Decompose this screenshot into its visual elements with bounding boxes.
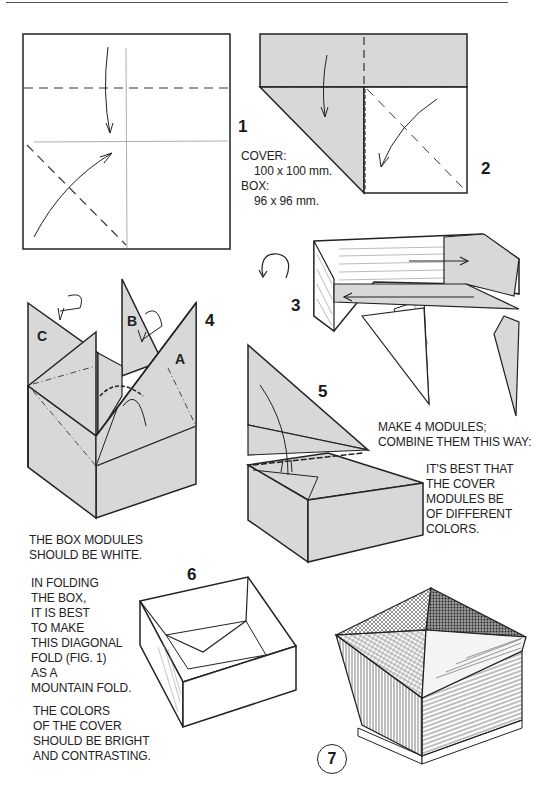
folding-box-line-8: MOUNTAIN FOLD. xyxy=(31,681,131,696)
flap-label-a: A xyxy=(175,351,185,367)
cover-colors-line-2: THE COVER xyxy=(426,477,495,492)
figure-2-number: 2 xyxy=(481,159,490,179)
figure-7-diagram xyxy=(336,588,526,760)
figure-7-number: 7 xyxy=(317,744,347,774)
figure-1-diagram xyxy=(22,33,232,251)
flap-label-c: C xyxy=(37,328,47,344)
make-modules-line-1: MAKE 4 MODULES; xyxy=(378,420,487,435)
bright-colors-line-4: AND CONTRASTING. xyxy=(33,749,151,764)
bright-colors-line-1: THE COLORS xyxy=(33,704,110,719)
make-modules-line-2: COMBINE THEM THIS WAY: xyxy=(378,435,531,450)
cover-colors-line-1: IT'S BEST THAT xyxy=(426,462,514,477)
folding-box-line-1: IN FOLDING xyxy=(31,576,99,591)
cover-colors-line-5: COLORS. xyxy=(426,522,479,537)
figure-6-diagram xyxy=(138,577,300,729)
cover-colors-line-4: OF DIFFERENT xyxy=(426,507,512,522)
folding-box-line-5: THIS DIAGONAL xyxy=(31,636,122,651)
figure-4-number: 4 xyxy=(205,311,214,331)
turn-over-arrow-icon xyxy=(258,250,292,288)
folding-box-line-3: IT IS BEST xyxy=(31,606,90,621)
figure-1-number: 1 xyxy=(238,117,247,137)
folding-box-line-6: FOLD (FIG. 1) xyxy=(31,651,106,666)
box-white-line-1: THE BOX MODULES xyxy=(29,533,143,548)
folding-box-line-2: THE BOX, xyxy=(31,591,86,606)
box-size: 96 x 96 mm. xyxy=(254,194,319,209)
folding-box-line-7: AS A xyxy=(31,666,57,681)
figure-2-diagram xyxy=(259,33,471,195)
flap-label-b: B xyxy=(127,313,137,329)
bright-colors-line-3: SHOULD BE BRIGHT xyxy=(33,734,149,749)
top-rule xyxy=(6,2,508,3)
cover-colors-line-3: MODULES BE xyxy=(426,492,504,507)
figure-4-diagram xyxy=(28,276,200,518)
box-white-line-2: SHOULD BE WHITE. xyxy=(29,548,142,563)
bright-colors-line-2: OF THE COVER xyxy=(33,719,122,734)
folding-box-line-4: TO MAKE xyxy=(31,621,84,636)
figure-3-number: 3 xyxy=(291,296,300,316)
figure-5-number: 5 xyxy=(318,382,327,402)
